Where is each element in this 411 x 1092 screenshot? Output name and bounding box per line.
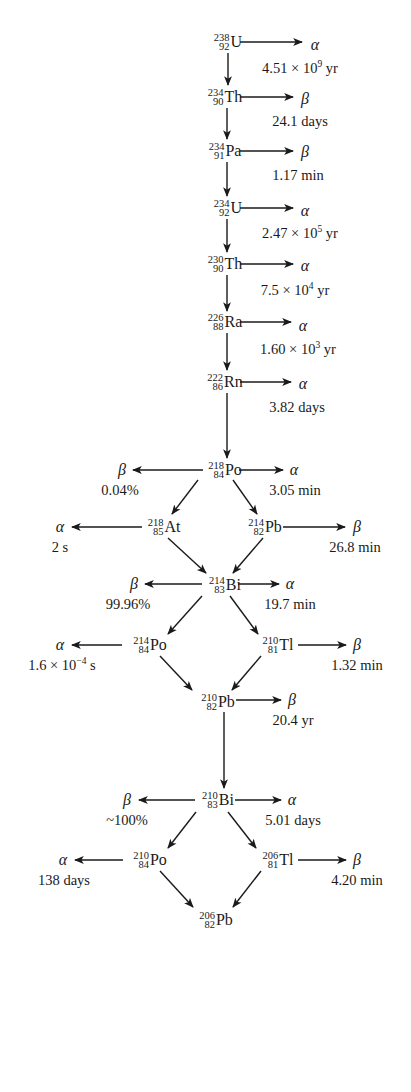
label-text: 1.60 × 10 (260, 341, 315, 357)
half-life-label: 0.04% (101, 482, 138, 499)
atomic-number: 82 (206, 702, 217, 711)
decay-arrow (168, 812, 196, 848)
label-text: 5.01 days (265, 812, 321, 828)
label-exponent: −4 (76, 656, 86, 666)
nuclide-th234: 23490Th (208, 88, 243, 106)
decay-arrow (172, 480, 198, 514)
atomic-number: 91 (214, 151, 225, 160)
label-text: 1.17 min (272, 167, 324, 183)
half-life-label: 3.82 days (269, 399, 325, 416)
beta-decay-symbol: β (130, 575, 138, 593)
beta-decay-symbol: β (123, 791, 131, 809)
element-symbol: Tl (279, 852, 293, 868)
atomic-number: 81 (268, 645, 279, 654)
label-text: 2 s (52, 539, 69, 555)
label-text: 24.1 days (272, 113, 328, 129)
alpha-decay-symbol: α (299, 375, 307, 393)
atomic-number: 86 (213, 382, 224, 391)
decay-chain-diagram: 23892U23490Th23491Pa23492U23090Th22688Ra… (0, 0, 411, 1092)
label-text: 0.04% (101, 482, 138, 498)
half-life-label: 7.5 × 104 yr (261, 282, 330, 299)
alpha-decay-symbol: α (288, 791, 296, 809)
element-symbol: Pa (225, 143, 241, 159)
label-text: 3.82 days (269, 399, 325, 415)
decay-arrow (233, 871, 261, 907)
element-symbol: Pb (218, 694, 235, 710)
nuclide-scripts: 21083 (202, 791, 218, 809)
half-life-label: 19.7 min (264, 596, 316, 613)
element-symbol: U (231, 34, 243, 50)
half-life-label: 4.51 × 109 yr (262, 60, 338, 77)
alpha-decay-symbol: α (299, 317, 307, 335)
element-symbol: Th (224, 89, 242, 105)
nuclide-scripts: 21484 (133, 636, 149, 654)
label-text: 1.32 min (331, 657, 383, 673)
label-text: 20.4 yr (272, 712, 313, 728)
atomic-number: 92 (219, 42, 230, 51)
atomic-number: 85 (153, 527, 164, 536)
nuclide-u234: 23492U (214, 199, 242, 217)
half-life-label: 1.17 min (272, 167, 324, 184)
half-life-label: 2 s (52, 539, 69, 556)
beta-decay-symbol: β (353, 636, 361, 654)
nuclide-scripts: 20681 (263, 851, 279, 869)
half-life-label: 1.6 × 10−4 s (28, 657, 95, 674)
label-text: 1.6 × 10 (28, 657, 76, 673)
nuclide-scripts: 21885 (148, 518, 164, 536)
half-life-label: ~100% (106, 812, 148, 829)
nuclide-scripts: 21082 (201, 693, 217, 711)
nuclide-scripts: 23090 (208, 255, 224, 273)
nuclide-ra226: 22688Ra (208, 313, 243, 331)
atomic-number: 82 (204, 920, 215, 929)
nuclide-scripts: 22688 (208, 313, 224, 331)
decay-arrow (168, 538, 206, 573)
nuclide-scripts: 21483 (209, 576, 225, 594)
nuclide-scripts: 23491 (209, 142, 225, 160)
beta-decay-symbol: β (353, 851, 361, 869)
beta-decay-symbol: β (118, 461, 126, 479)
nuclide-scripts: 23492 (214, 199, 230, 217)
element-symbol: Po (150, 852, 167, 868)
element-symbol: Th (224, 256, 242, 272)
nuclide-po218: 21884Po (208, 461, 242, 479)
alpha-decay-symbol: α (59, 851, 67, 869)
nuclide-pb210: 21082Pb (201, 693, 235, 711)
decay-arrow (228, 812, 256, 848)
element-symbol: At (164, 519, 180, 535)
beta-decay-symbol: β (288, 691, 296, 709)
label-text: 3.05 min (269, 482, 321, 498)
element-symbol: Rn (224, 374, 243, 390)
decay-arrow (160, 871, 193, 907)
atomic-number: 88 (213, 322, 224, 331)
decay-arrow (168, 596, 202, 634)
nuclide-pa234: 23491Pa (209, 142, 242, 160)
half-life-label: 2.47 × 105 yr (262, 225, 338, 242)
half-life-label: 20.4 yr (272, 712, 313, 729)
element-symbol: Bi (226, 577, 241, 593)
nuclide-scripts: 21084 (133, 851, 149, 869)
atomic-number: 84 (213, 470, 224, 479)
half-life-label: 138 days (38, 872, 90, 889)
nuclide-scripts: 21081 (263, 636, 279, 654)
half-life-label: 26.8 min (329, 539, 381, 556)
label-unit: s (86, 657, 95, 673)
decay-arrow (232, 656, 261, 690)
beta-decay-symbol: β (301, 143, 309, 161)
element-symbol: Bi (219, 792, 234, 808)
alpha-decay-symbol: α (286, 575, 294, 593)
atomic-number: 90 (213, 264, 224, 273)
alpha-decay-symbol: α (56, 636, 64, 654)
nuclide-pb206: 20682Pb (199, 911, 233, 929)
beta-decay-symbol: β (353, 518, 361, 536)
nuclide-bi214: 21483Bi (209, 576, 241, 594)
nuclide-bi210: 21083Bi (202, 791, 234, 809)
nuclide-th230: 23090Th (208, 255, 243, 273)
nuclide-u238: 23892U (214, 33, 242, 51)
decay-arrow (233, 480, 257, 514)
label-text: 7.5 × 10 (261, 282, 309, 298)
decay-arrow (230, 596, 258, 634)
nuclide-scripts: 20682 (199, 911, 215, 929)
nuclide-rn222: 22286Rn (207, 373, 242, 391)
nuclide-scripts: 21482 (248, 518, 264, 536)
alpha-decay-symbol: α (290, 461, 298, 479)
